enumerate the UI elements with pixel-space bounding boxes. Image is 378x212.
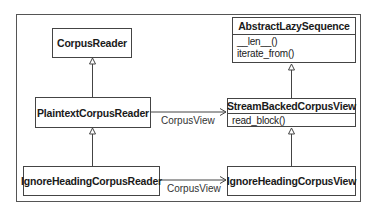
edge-label-corpusview-bottom: CorpusView (167, 183, 221, 194)
class-name: AbstractLazySequence (233, 18, 355, 35)
edge-label-corpusview-top: CorpusView (161, 115, 215, 126)
inheritance-arrow-streambacked-to-abstractlazy (289, 64, 295, 98)
class-ignore-heading-corpus-reader: IgnoreHeadingCorpusReader (23, 166, 160, 196)
method-iterate-from: iterate_from() (233, 48, 355, 60)
method-len: __len__() (233, 36, 355, 48)
class-ignore-heading-corpus-view: IgnoreHeadingCorpusView (227, 166, 356, 196)
class-stream-backed-corpus-view: StreamBackedCorpusView read_block() (227, 98, 356, 127)
class-plaintext-corpus-reader: PlaintextCorpusReader (35, 97, 151, 128)
class-name: StreamBackedCorpusView (228, 99, 355, 114)
class-abstract-lazy-sequence: AbstractLazySequence __len__() iterate_f… (232, 17, 356, 63)
class-name: IgnoreHeadingCorpusReader (24, 167, 159, 195)
method-read-block: read_block() (228, 114, 355, 127)
inheritance-arrow-ignorereader-to-plaintext (90, 128, 96, 166)
class-name: IgnoreHeadingCorpusView (228, 167, 355, 195)
class-corpus-reader: CorpusReader (52, 28, 132, 58)
inheritance-arrow-plaintext-to-corpusreader (90, 58, 96, 97)
inheritance-arrow-ignoreview-to-streambacked (289, 128, 295, 166)
class-name: CorpusReader (53, 29, 131, 57)
class-name: PlaintextCorpusReader (36, 98, 150, 127)
